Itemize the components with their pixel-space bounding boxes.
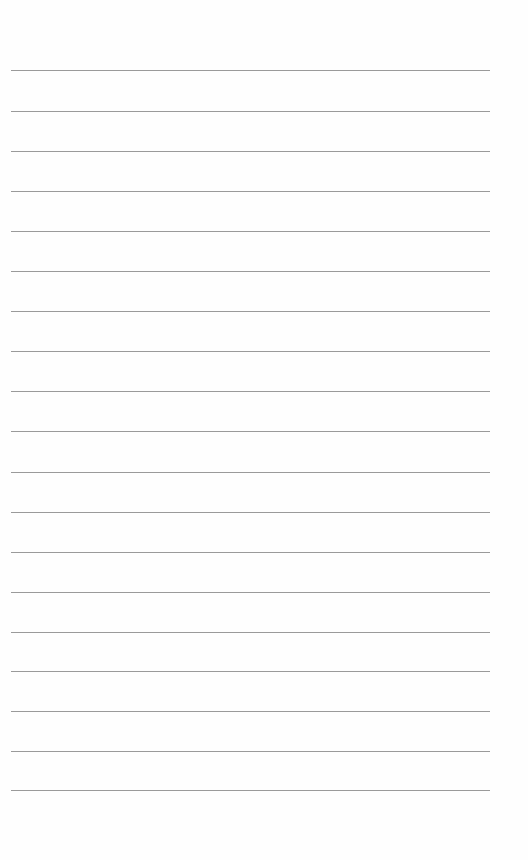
ruled-line [11,512,490,513]
ruled-line [11,592,490,593]
ruled-line [11,790,490,791]
ruled-line [11,191,490,192]
ruled-line [11,351,490,352]
ruled-line [11,751,490,752]
ruled-line [11,111,490,112]
ruled-line [11,552,490,553]
ruled-line [11,231,490,232]
ruled-line [11,711,490,712]
ruled-line [11,431,490,432]
ruled-line [11,271,490,272]
ruled-line [11,391,490,392]
ruled-line [11,151,490,152]
ruled-line [11,70,490,71]
ruled-line [11,472,490,473]
lined-paper-page [0,0,528,860]
ruled-line [11,311,490,312]
ruled-line [11,671,490,672]
ruled-line [11,632,490,633]
